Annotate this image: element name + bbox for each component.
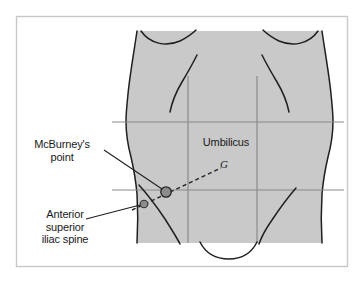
label-umbilicus: Umbilicus xyxy=(186,136,266,149)
mcburneys-point-marker xyxy=(161,187,171,197)
anatomy-figure: G McBurney's point Anterior superior ili… xyxy=(0,0,364,283)
label-mcburneys-point: McBurney's point xyxy=(22,138,102,163)
label-anterior-superior-iliac-spine: Anterior superior iliac spine xyxy=(22,208,108,246)
umbilicus-glyph: G xyxy=(220,158,228,170)
asis-marker xyxy=(140,200,148,208)
pubic-arc xyxy=(200,242,257,259)
